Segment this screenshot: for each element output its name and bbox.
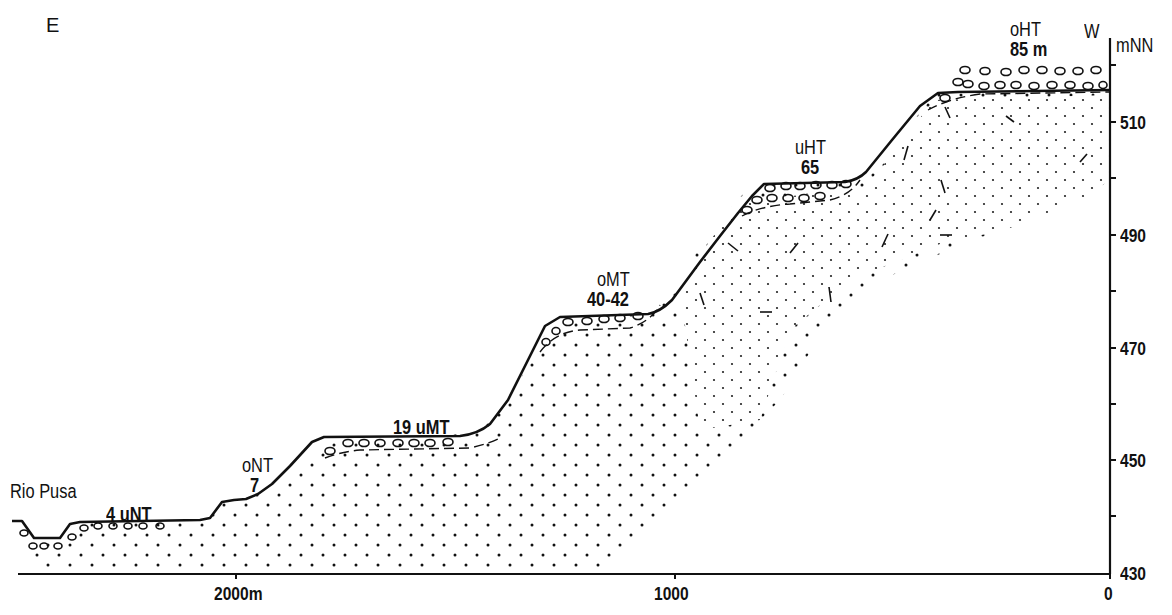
- y-tick-430: 430: [1120, 563, 1146, 585]
- y-tick-510: 510: [1120, 112, 1146, 134]
- terrace-unt-label: 4 uNT: [106, 503, 152, 526]
- terrace-oht-height: 85 m: [1010, 38, 1047, 61]
- y-tick-470: 470: [1120, 338, 1146, 360]
- x-tick-2000m: 2000m: [214, 583, 263, 605]
- west-label: W: [1084, 20, 1099, 43]
- cross-section-diagram: [0, 0, 1172, 615]
- y-axis-unit: mNN: [1116, 34, 1153, 57]
- y-tick-490: 490: [1120, 225, 1146, 247]
- terrace-ont-height: 7: [250, 474, 259, 497]
- terrace-umt-label: 19 uMT: [393, 416, 450, 439]
- terrace-omt-height: 40-42: [587, 288, 629, 311]
- river-label: Rio Pusa: [10, 480, 77, 503]
- y-tick-450: 450: [1120, 450, 1146, 472]
- x-tick-0: 0: [1104, 583, 1113, 605]
- terrace-uht-height: 65: [801, 156, 819, 179]
- east-label: E: [46, 14, 59, 37]
- x-tick-1000: 1000: [654, 583, 689, 605]
